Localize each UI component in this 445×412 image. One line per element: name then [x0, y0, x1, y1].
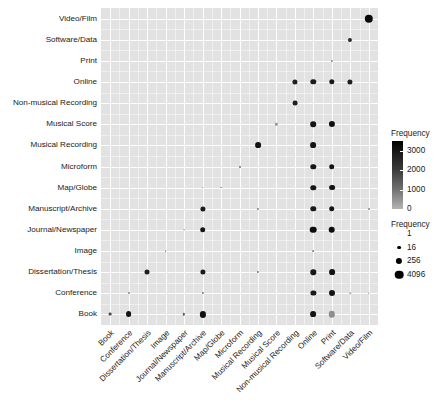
- chart-canvas: Video/FilmSoftware/DataPrintOnlineNon-mu…: [0, 0, 445, 412]
- gridline-horizontal-minor: [101, 177, 378, 178]
- size-legend-label: 1: [407, 230, 412, 238]
- data-point: [329, 185, 335, 191]
- gridline-horizontal: [101, 230, 378, 231]
- data-point: [312, 250, 314, 252]
- gridline-horizontal: [101, 103, 378, 104]
- y-axis-tick-label: Manuscript/Archive: [28, 205, 97, 213]
- y-axis-tick-label: Book: [79, 310, 97, 318]
- y-axis-tick-label: Image: [75, 247, 98, 255]
- size-legend-dot: [397, 246, 401, 250]
- data-point: [220, 187, 222, 189]
- data-point: [310, 312, 316, 318]
- gridline-horizontal-minor: [101, 135, 378, 136]
- data-point: [368, 208, 370, 210]
- gridline-horizontal: [101, 19, 378, 20]
- y-axis-tick-label: Print: [80, 57, 97, 65]
- color-legend-title: Frequency: [391, 130, 430, 138]
- gridline-horizontal-minor: [101, 29, 378, 30]
- gridline-horizontal-minor: [101, 114, 378, 115]
- gridline-horizontal: [101, 209, 378, 210]
- gridline-horizontal-minor: [101, 219, 378, 220]
- gridline-horizontal: [101, 82, 378, 83]
- gridline-horizontal-minor: [101, 198, 378, 199]
- gridline-horizontal: [101, 61, 378, 62]
- data-point: [145, 270, 150, 275]
- data-point: [311, 121, 317, 127]
- y-axis-tick-label: Musical Score: [46, 120, 97, 128]
- gridline-horizontal: [101, 272, 378, 273]
- y-axis-tick-label: Conference: [55, 289, 97, 297]
- gridline-horizontal: [101, 293, 378, 294]
- gridline-horizontal-minor: [101, 283, 378, 284]
- gridline-horizontal-minor: [101, 304, 378, 305]
- gridline-horizontal: [101, 145, 378, 146]
- color-legend-tick: [400, 190, 403, 191]
- y-axis-tick-label: Software/Data: [46, 36, 97, 44]
- y-axis-tick-label: Microform: [61, 162, 97, 170]
- data-point: [202, 187, 204, 189]
- color-legend-tick-label: 0: [407, 205, 412, 213]
- size-legend-dot: [398, 233, 399, 234]
- data-point: [329, 290, 335, 296]
- gridline-horizontal: [101, 314, 378, 315]
- gridline-horizontal-minor: [101, 240, 378, 241]
- data-point: [128, 292, 130, 294]
- data-point: [292, 101, 297, 106]
- data-point: [109, 313, 112, 316]
- color-legend-tick-label: 2000: [407, 166, 425, 174]
- data-point: [126, 312, 132, 318]
- gridline-horizontal: [101, 40, 378, 41]
- gridline-horizontal: [101, 251, 378, 252]
- gridline-horizontal-minor: [101, 93, 378, 94]
- color-legend-tick-label: 1000: [407, 185, 425, 193]
- gridline-horizontal: [101, 188, 378, 189]
- size-legend-label: 4096: [407, 270, 425, 278]
- y-axis-tick-label: Video/Film: [59, 15, 97, 23]
- size-legend-dot: [396, 258, 402, 264]
- color-legend-tick: [400, 170, 403, 171]
- data-point: [329, 269, 335, 275]
- color-legend-tick-label: 3000: [407, 147, 425, 155]
- size-legend-dot: [395, 270, 404, 279]
- data-point: [329, 164, 335, 170]
- gridline-horizontal: [101, 124, 378, 125]
- data-point: [200, 227, 206, 233]
- gridline-horizontal-minor: [101, 50, 378, 51]
- gridline-vertical-minor: [378, 8, 379, 325]
- data-point: [329, 206, 335, 212]
- size-legend-label: 16: [407, 243, 416, 251]
- size-legend-label: 256: [407, 257, 421, 265]
- y-axis-tick-label: Dissertation/Thesis: [28, 268, 97, 276]
- y-axis-tick-label: Journal/Newspaper: [27, 226, 97, 234]
- y-axis-tick-label: Non-musical Recording: [13, 99, 97, 107]
- data-point: [329, 227, 336, 234]
- data-point: [165, 250, 167, 252]
- gridline-horizontal-minor: [101, 71, 378, 72]
- y-axis-tick-label: Map/Globe: [57, 184, 97, 192]
- data-point: [239, 166, 241, 168]
- color-legend-tick: [400, 209, 403, 210]
- gridline-horizontal-minor: [101, 325, 378, 326]
- data-point: [310, 227, 317, 234]
- color-legend-tick: [400, 151, 403, 152]
- y-axis-tick-label: Online: [74, 78, 97, 86]
- gridline-horizontal-minor: [101, 156, 378, 157]
- y-axis-tick-label: Musical Recording: [30, 141, 97, 149]
- data-point: [255, 142, 261, 148]
- data-point: [183, 229, 185, 231]
- data-point: [310, 142, 316, 148]
- gridline-horizontal-minor: [101, 262, 378, 263]
